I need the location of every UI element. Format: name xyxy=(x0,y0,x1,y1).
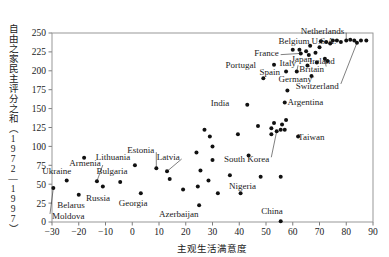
point-label: Spain xyxy=(259,67,280,77)
y-tick-label: 125 xyxy=(32,123,47,133)
data-point xyxy=(279,219,283,223)
data-point-unlabeled xyxy=(168,177,172,181)
data-point xyxy=(197,203,201,207)
data-point-unlabeled xyxy=(206,178,210,182)
y-tick-label: 175 xyxy=(32,85,47,95)
y-tick-label: 100 xyxy=(32,142,47,152)
point-label: Belarus xyxy=(57,200,85,210)
data-point xyxy=(139,191,143,195)
data-point-unlabeled xyxy=(359,39,363,43)
data-point-unlabeled xyxy=(318,45,322,49)
data-point-unlabeled xyxy=(196,184,200,188)
x-tick-label: 70 xyxy=(315,227,325,237)
data-point-unlabeled xyxy=(216,191,220,195)
data-point xyxy=(165,169,169,173)
data-point xyxy=(77,193,81,197)
data-point xyxy=(344,39,348,43)
point-label: France xyxy=(254,48,279,58)
x-tick-label: 0 xyxy=(130,227,135,237)
data-point xyxy=(355,41,359,45)
point-label: Russia xyxy=(86,193,110,203)
point-label: Belgium xyxy=(278,36,309,46)
point-label: China xyxy=(261,206,283,216)
data-point xyxy=(259,175,263,179)
data-point-unlabeled xyxy=(181,187,185,191)
data-point-unlabeled xyxy=(208,135,212,139)
data-point xyxy=(101,184,105,188)
x-tick-label: 60 xyxy=(288,227,298,237)
data-point xyxy=(118,180,122,184)
data-point-unlabeled xyxy=(279,175,283,179)
y-tick-label: 225 xyxy=(32,47,47,57)
data-point-unlabeled xyxy=(283,128,287,132)
x-tick-label: 50 xyxy=(261,227,271,237)
data-point-unlabeled xyxy=(304,49,308,53)
point-label: Bulgaria xyxy=(97,166,128,176)
point-label: Ireland xyxy=(309,56,335,66)
point-label: Taiwan xyxy=(298,132,325,142)
data-point-unlabeled xyxy=(239,191,243,195)
data-point xyxy=(275,129,279,133)
x-tick-label: 90 xyxy=(368,227,378,237)
point-label: Lithuania xyxy=(96,152,131,162)
y-tick-label: 0 xyxy=(41,217,46,227)
data-point-unlabeled xyxy=(272,121,276,125)
data-point xyxy=(272,63,276,67)
point-label: Georgia xyxy=(119,198,148,208)
point-label: Argentina xyxy=(287,97,323,107)
point-label: Netherlands xyxy=(301,26,345,36)
point-label: Ukraine xyxy=(42,166,71,176)
data-point-unlabeled xyxy=(228,173,232,177)
data-point-unlabeled xyxy=(194,150,198,154)
point-label: U.S.A. xyxy=(311,36,336,46)
x-tick-label: 30 xyxy=(208,227,218,237)
x-tick-label: 80 xyxy=(342,227,352,237)
y-tick-label: 150 xyxy=(32,104,47,114)
y-tick-label: 250 xyxy=(32,28,47,38)
point-label: Moldova xyxy=(52,211,85,221)
scatter-chart: 自由之家民主评分之和（1972—1997） MoldovaUkraineBela… xyxy=(0,0,389,257)
data-point xyxy=(95,179,99,183)
data-point-unlabeled xyxy=(211,144,215,148)
x-tick-label: −20 xyxy=(71,227,86,237)
data-point-unlabeled xyxy=(364,39,368,43)
data-point xyxy=(245,103,249,107)
data-point-unlabeled xyxy=(285,88,289,92)
data-point-unlabeled xyxy=(256,124,260,128)
point-label: Switzerland xyxy=(296,81,339,91)
data-point xyxy=(65,178,69,182)
data-point xyxy=(284,70,288,74)
data-point-unlabeled xyxy=(348,38,352,42)
data-point xyxy=(51,186,55,190)
data-point-unlabeled xyxy=(339,40,343,44)
point-label: Nigeria xyxy=(229,181,256,191)
data-point-unlabeled xyxy=(279,128,283,132)
data-point-unlabeled xyxy=(269,132,273,136)
data-point xyxy=(313,51,317,55)
y-tick-label: 200 xyxy=(32,66,47,76)
x-axis-title: 主观生活满意度 xyxy=(177,243,247,254)
data-point-unlabeled xyxy=(269,126,273,130)
point-label: Azerbaijan xyxy=(159,209,199,219)
plot-canvas: MoldovaUkraineBelarusArmeniaRussiaBulgar… xyxy=(0,0,389,257)
data-point-unlabeled xyxy=(284,118,288,122)
x-tick-label: 10 xyxy=(154,227,164,237)
y-tick-label: 50 xyxy=(37,180,47,190)
x-tick-label: −10 xyxy=(98,227,113,237)
data-point-unlabeled xyxy=(297,48,301,52)
x-tick-label: 20 xyxy=(181,227,191,237)
data-point-unlabeled xyxy=(291,48,295,52)
data-point-unlabeled xyxy=(236,132,240,136)
data-point xyxy=(154,166,158,170)
point-label: Portugal xyxy=(225,60,256,70)
point-label: Estonia xyxy=(127,145,154,155)
data-point xyxy=(133,163,137,167)
point-labels: MoldovaUkraineBelarusArmeniaRussiaBulgar… xyxy=(42,26,344,221)
data-point-unlabeled xyxy=(202,128,206,132)
y-tick-label: 25 xyxy=(37,199,47,209)
y-tick-label: 75 xyxy=(37,161,47,171)
point-label: Latvia xyxy=(157,152,180,162)
data-point xyxy=(283,101,287,105)
x-tick-label: 40 xyxy=(235,227,245,237)
x-tick-label: −30 xyxy=(45,227,60,237)
